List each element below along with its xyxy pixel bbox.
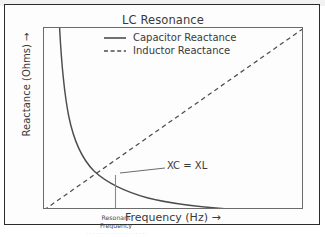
annotation-resonant-frequency: Resonant Frequency <box>89 214 143 229</box>
annotation-resonant-line-1: Resonant <box>89 214 143 222</box>
legend-item-capacitor-reactance: Capacitor Reactance <box>104 31 254 44</box>
legend-label-capacitor-reactance: Capacitor Reactance <box>133 32 237 43</box>
scan-artifact-bottom: ................... <box>0 229 325 237</box>
y-axis-label: Reactance (Ohms) → <box>21 20 32 150</box>
figure-container: LC Resonance Reactance (Ohms) → Frequenc… <box>4 4 320 225</box>
legend-label-inductor-reactance: Inductor Reactance <box>133 45 230 56</box>
annotation-xc-equals-xl: XC = XL <box>167 160 207 171</box>
chart-title: LC Resonance <box>5 13 321 27</box>
xc-xl-leader-line <box>120 168 165 173</box>
dashed-line-icon <box>104 46 126 56</box>
chart-legend: Capacitor Reactance Inductor Reactance <box>104 31 254 57</box>
legend-item-inductor-reactance: Inductor Reactance <box>104 44 254 57</box>
caption-artifact-text: ................... <box>86 228 149 235</box>
figure-screenshot: LC Resonance Reactance (Ohms) → Frequenc… <box>0 0 325 237</box>
solid-line-icon <box>104 33 126 43</box>
